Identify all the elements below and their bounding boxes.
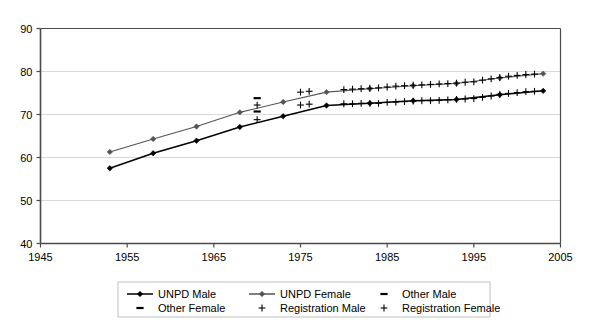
x-axis — [41, 29, 561, 244]
y-tick-label: 60 — [20, 152, 32, 164]
legend-label: UNPD Female — [280, 288, 351, 300]
x-tick-label: 2005 — [548, 251, 572, 263]
y-tick-label: 50 — [20, 195, 32, 207]
x-tick-label: 1945 — [28, 251, 52, 263]
data-point-diamond — [280, 99, 285, 104]
x-tick-label: 1965 — [202, 251, 226, 263]
x-tick-label: 1995 — [462, 251, 486, 263]
series-unpd-female — [107, 71, 546, 155]
y-tick-label: 40 — [20, 238, 32, 250]
data-point-diamond — [324, 89, 329, 94]
chart-container: 908070605040 194519551965197519851995200… — [0, 0, 598, 332]
chart-legend: UNPD MaleUNPD FemaleOther MaleOther Fema… — [118, 282, 500, 317]
data-point-diamond — [150, 151, 155, 156]
x-tick-labels: 1945195519651975198519952005 — [28, 244, 572, 263]
data-point-diamond — [107, 166, 112, 171]
data-point-diamond — [540, 88, 545, 93]
y-tick-label: 90 — [20, 23, 32, 35]
data-point-diamond — [194, 138, 199, 143]
data-point-diamond — [324, 103, 329, 108]
legend-label: UNPD Male — [158, 288, 216, 300]
series-registration-male — [254, 88, 538, 123]
y-tick-label: 70 — [20, 109, 32, 121]
data-point-diamond — [150, 136, 155, 141]
legend-label: Other Female — [158, 302, 225, 314]
series-unpd-male — [107, 88, 546, 171]
data-point-diamond — [107, 149, 112, 154]
data-point-diamond — [237, 124, 242, 129]
legend-label: Registration Female — [402, 302, 500, 314]
grid-lines — [41, 29, 561, 201]
legend-label: Registration Male — [280, 302, 366, 314]
data-point-diamond — [194, 124, 199, 129]
series-line — [110, 74, 543, 152]
x-tick-label: 1955 — [115, 251, 139, 263]
line-chart: 908070605040 194519551965197519851995200… — [0, 0, 598, 332]
x-tick-label: 1975 — [288, 251, 312, 263]
legend-label: Other Male — [402, 288, 456, 300]
x-tick-label: 1985 — [375, 251, 399, 263]
data-series-group — [107, 71, 546, 171]
y-tick-labels: 908070605040 — [20, 23, 40, 250]
y-tick-label: 80 — [20, 66, 32, 78]
